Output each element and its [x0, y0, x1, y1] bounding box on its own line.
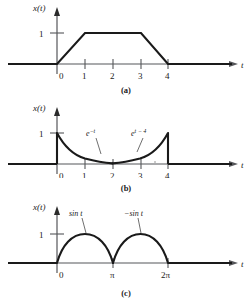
panel-b-exp-decay-curve: [57, 133, 113, 163]
panel-b-xtick-label-1: 1: [82, 171, 87, 178]
panel-c-ytick-label-1: 1: [39, 230, 44, 240]
panel-c-leader-left: [82, 218, 86, 233]
panel-a-caption: (a): [0, 85, 252, 95]
panel-b-curve-label-left: e−t: [86, 128, 96, 138]
panel-b-xaxis-label: t: [241, 160, 244, 170]
panel-b-yaxis-label: x(t): [32, 103, 46, 113]
panel-c-xaxis-label: t: [241, 259, 244, 269]
panel-a-xtick-label-0: 0: [59, 71, 64, 80]
panel-a-xtick-label-4: 4: [165, 71, 170, 80]
panel-c-plot: x(t) t 1 0 π 2π sin t −sin t: [0, 197, 252, 279]
panel-a-plot: x(t) t 1 0 1 2 3 4: [0, 0, 252, 80]
panel-a-yaxis-label: x(t): [32, 3, 46, 13]
panel-b-xtick-label-0: 0: [59, 171, 64, 178]
panel-b-curve-label-right-exp: t − 4: [135, 128, 147, 134]
panel-a-xaxis-label: t: [241, 60, 244, 70]
panel-a-xtick-label-3: 3: [138, 71, 143, 80]
scan-speck: [154, 161, 156, 163]
panel-c-curve-label-left: sin t: [69, 209, 83, 218]
panel-b-xtick-label-3: 3: [138, 171, 143, 178]
panel-b-leader-right: [137, 138, 143, 152]
panel-b-xtick-label-4: 4: [165, 171, 170, 178]
panel-c-xtick-label-pi: π: [110, 270, 115, 279]
panel-b-curve-label-right: et − 4: [131, 128, 146, 138]
panel-b-plot: x(t) t 1 0 1 2 3 4 e−t et − 4: [0, 100, 252, 178]
panel-a-xtick-label-2: 2: [110, 71, 115, 80]
panel-c-xtick-label-2pi: 2π: [161, 270, 171, 279]
panel-c-caption: (c): [0, 288, 252, 298]
panel-a: x(t) t 1 0 1 2 3 4: [0, 0, 252, 80]
panel-b-exp-rise-curve: [113, 133, 169, 163]
panel-c-sin-arch-curve: [57, 234, 113, 263]
panel-c-xtick-label-0: 0: [59, 270, 64, 279]
panel-c-leader-right: [138, 218, 141, 233]
panel-a-ytick-label-1: 1: [39, 29, 44, 39]
panel-b-caption: (b): [0, 183, 252, 193]
panel-b-leader-left: [96, 138, 101, 154]
panel-c: x(t) t 1 0 π 2π sin t −sin t: [0, 197, 252, 279]
panel-a-xtick-label-1: 1: [82, 71, 87, 80]
panel-c-neg-sin-arch-curve: [113, 234, 168, 263]
figure-container: x(t) t 1 0 1 2 3 4 (a): [0, 0, 252, 307]
panel-c-yaxis-label: x(t): [32, 202, 46, 212]
panel-b-xtick-label-2: 2: [110, 171, 115, 178]
panel-b: x(t) t 1 0 1 2 3 4 e−t et − 4: [0, 100, 252, 178]
panel-b-ytick-label-1: 1: [39, 129, 44, 139]
panel-b-curve-label-left-exp: −t: [90, 128, 96, 134]
panel-c-curve-label-right: −sin t: [124, 209, 144, 218]
